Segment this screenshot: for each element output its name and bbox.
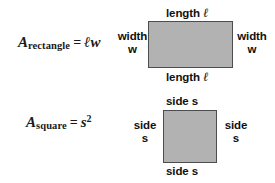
square-right-label: side s <box>221 119 251 145</box>
formula-variable: A <box>18 34 28 50</box>
rectangle-bottom-label-symbol: ℓ <box>203 70 208 84</box>
rectangle-top-label-symbol: ℓ <box>203 6 208 20</box>
formula-equals-sign: = <box>70 35 84 50</box>
rectangle-bottom-label: length ℓ <box>166 70 208 84</box>
rectangle-top-label: length ℓ <box>166 6 208 20</box>
rectangle-top-label-text: length <box>166 7 200 19</box>
square-top-label: side s <box>166 95 198 108</box>
rectangle-left-label: width w <box>117 30 148 56</box>
formula-expression: ℓw <box>84 34 100 50</box>
formula-exponent: 2 <box>87 113 92 124</box>
rectangle-left-label-line1: width <box>118 30 148 42</box>
square-bottom-label: side s <box>166 165 198 178</box>
rectangle-right-label-line1: width <box>237 30 267 42</box>
rectangle-shape <box>148 21 233 68</box>
rectangle-right-label-line2: w <box>235 43 269 56</box>
square-shape <box>163 110 217 163</box>
rectangle-bottom-label-text: length <box>166 71 200 83</box>
formula-equals-sign: = <box>67 115 81 130</box>
rectangle-left-label-line2: w <box>117 43 148 56</box>
geometry-area-figure: Arectangle=ℓw length ℓ length ℓ width w … <box>0 0 275 183</box>
formula-subscript: rectangle <box>28 40 70 51</box>
square-left-label-line2: s <box>130 132 160 145</box>
formula-variable: A <box>26 114 36 130</box>
square-right-label-line2: s <box>221 132 251 145</box>
rectangle-area-formula: Arectangle=ℓw <box>18 34 101 52</box>
formula-subscript: square <box>36 120 67 131</box>
square-right-label-line1: side <box>225 119 248 131</box>
square-left-label: side s <box>130 119 160 145</box>
square-left-label-line1: side <box>134 119 157 131</box>
rectangle-right-label: width w <box>235 30 269 56</box>
square-area-formula: Asquare=s2 <box>26 114 92 132</box>
